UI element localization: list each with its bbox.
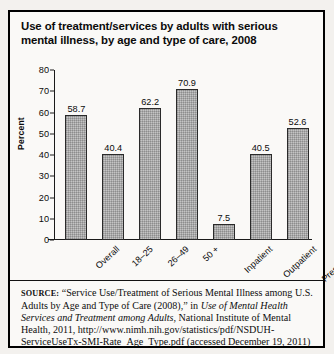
x-tick-label: Prescription <box>320 244 334 284</box>
bar: 52.6 <box>287 128 309 240</box>
y-tick-mark <box>50 155 54 156</box>
plot-area: 0102030405060708058.7Overall40.418–2562.… <box>54 70 312 240</box>
bar-value-label: 40.4 <box>104 143 122 153</box>
y-tick-mark <box>50 112 54 113</box>
bar-value-label: 70.9 <box>178 78 196 88</box>
y-tick-mark <box>50 91 54 92</box>
x-tick-label: Overall <box>93 244 121 271</box>
x-tick-label: Inpatient <box>242 244 274 275</box>
divider <box>10 280 323 281</box>
y-tick-mark <box>50 240 54 241</box>
bar-chart: Percent 0102030405060708058.7Overall40.4… <box>10 58 323 280</box>
x-tick-label: Outpatient <box>281 244 318 280</box>
bar: 70.9 <box>176 89 198 240</box>
y-axis-line <box>54 70 55 240</box>
figure-title: Use of treatment/services by adults with… <box>21 19 311 47</box>
bar: 7.5 <box>213 224 235 240</box>
bar-value-label: 62.2 <box>141 97 159 107</box>
bar: 40.4 <box>102 154 124 240</box>
y-tick-mark <box>50 176 54 177</box>
bar-value-label: 7.5 <box>217 213 230 223</box>
source-label: SOURCE: <box>21 289 59 298</box>
figure-panel: Use of treatment/services by adults with… <box>8 10 325 348</box>
y-axis-label: Percent <box>16 117 26 150</box>
bar: 58.7 <box>65 115 87 240</box>
y-tick-mark <box>50 197 54 198</box>
bar-value-label: 52.6 <box>289 117 307 127</box>
x-tick-label: 26–49 <box>166 244 191 268</box>
bar-value-label: 58.7 <box>67 104 85 114</box>
y-tick-mark <box>50 218 54 219</box>
bar: 40.5 <box>250 154 272 240</box>
source-note: SOURCE: “Service Use/Treatment of Seriou… <box>21 287 313 348</box>
y-tick-mark <box>50 70 54 71</box>
bar-value-label: 40.5 <box>252 143 270 153</box>
x-tick-label: 50 + <box>201 244 221 263</box>
bar: 62.2 <box>139 108 161 240</box>
y-tick-mark <box>50 133 54 134</box>
x-tick-label: 18–25 <box>129 244 154 268</box>
